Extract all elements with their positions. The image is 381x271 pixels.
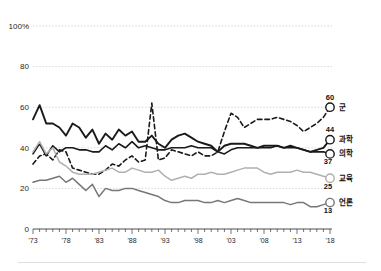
x-tick-label-1998: '98 [193,237,202,244]
series-name-label-4: 언론 [339,197,353,207]
series-name-label-0: 군 [339,103,346,112]
x-tick-label-2003: '03 [226,237,235,244]
y-tick-label-60: 60 [20,103,29,112]
series-line-4 [33,176,330,206]
y-tick-label-40: 40 [20,144,29,153]
x-tick-label-2018: '18 [325,237,334,244]
series-value-label-0: 60 [326,93,334,102]
chart-canvas: 100%806040200'73'78'83'88'93'98'03'08'13… [0,0,381,271]
x-tick-label-1993: '93 [160,237,169,244]
series-name-label-2: 의학 [339,148,353,158]
series-endpoint-marker-0 [326,103,334,111]
series-value-label-1: 44 [326,125,335,134]
series-value-label-2: 37 [324,157,332,166]
line-chart: 100%806040200'73'78'83'88'93'98'03'08'13… [0,0,381,271]
x-tick-label-1988: '88 [127,237,136,244]
series-line-1 [33,105,330,152]
series-name-label-3: 교육 [339,173,353,183]
x-tick-label-1973: '73 [28,237,37,244]
x-tick-label-2008: '08 [259,237,268,244]
x-tick-label-2013: '13 [292,237,301,244]
y-tick-label-100: 100% [9,22,29,31]
series-line-2 [33,142,330,156]
y-tick-label-80: 80 [20,62,29,71]
series-line-0 [33,103,330,174]
y-tick-label-20: 20 [20,184,29,193]
series-value-label-4: 13 [324,206,332,215]
y-tick-label-0: 0 [25,225,30,234]
x-tick-label-1983: '83 [94,237,103,244]
series-value-label-3: 25 [324,182,332,191]
x-tick-label-1978: '78 [61,237,70,244]
series-endpoint-marker-1 [326,135,334,143]
series-name-label-1: 과학 [339,134,353,144]
